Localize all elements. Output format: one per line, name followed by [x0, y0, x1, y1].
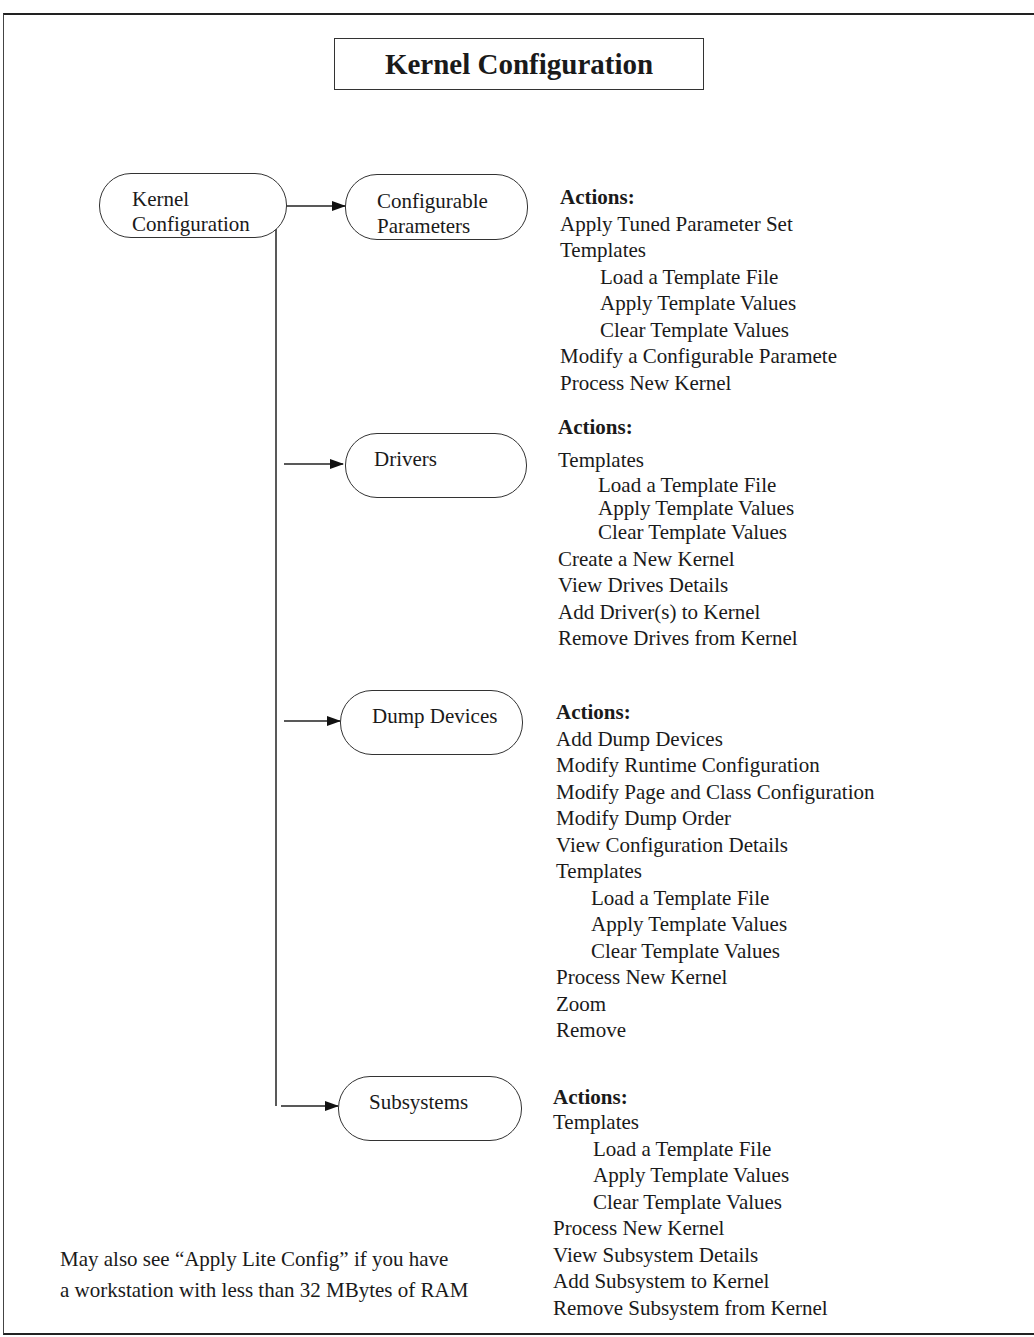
action-item: Remove Subsystem from Kernel: [553, 1295, 828, 1322]
actions-subsystems: Actions: Templates Load a Template File …: [553, 1085, 828, 1321]
node-configurable-parameters: Configurable Parameters: [345, 174, 528, 240]
action-item: Templates: [556, 858, 874, 885]
action-subitem: Load a Template File: [558, 473, 798, 497]
action-item: Modify a Configurable Paramete: [560, 343, 837, 370]
actions-header: Actions:: [556, 699, 874, 726]
node-label: Kernel: [132, 187, 286, 212]
action-item: Zoom: [556, 991, 874, 1018]
footnote: May also see “Apply Lite Config” if you …: [60, 1244, 468, 1306]
node-drivers: Drivers: [345, 433, 527, 498]
action-subitem: Apply Template Values: [558, 497, 798, 519]
action-item: Process New Kernel: [560, 370, 837, 397]
action-item: View Configuration Details: [556, 832, 874, 859]
action-item: Templates: [553, 1109, 828, 1136]
action-item: Modify Page and Class Configuration: [556, 779, 874, 806]
node-dump-devices: Dump Devices: [340, 690, 523, 755]
node-label: Configurable: [377, 189, 527, 214]
footnote-line: a workstation with less than 32 MBytes o…: [60, 1275, 468, 1306]
node-label: Subsystems: [369, 1090, 521, 1115]
action-subitem: Apply Template Values: [553, 1162, 828, 1189]
action-item: Templates: [560, 237, 837, 264]
action-subitem: Load a Template File: [556, 885, 874, 912]
action-item: View Subsystem Details: [553, 1242, 828, 1269]
actions-dump-devices: Actions: Add Dump Devices Modify Runtime…: [556, 699, 874, 1044]
action-subitem: Clear Template Values: [556, 938, 874, 965]
action-subitem: Load a Template File: [553, 1136, 828, 1163]
node-label: Drivers: [374, 447, 526, 472]
action-subitem: Clear Template Values: [560, 317, 837, 344]
node-label: Configuration: [132, 212, 286, 237]
action-item: Templates: [558, 447, 798, 474]
action-item: Process New Kernel: [553, 1215, 828, 1242]
actions-header: Actions:: [560, 184, 837, 211]
actions-header: Actions:: [558, 414, 798, 441]
action-item: Modify Dump Order: [556, 805, 874, 832]
node-label: Dump Devices: [372, 704, 522, 729]
action-subitem: Apply Template Values: [556, 911, 874, 938]
action-item: Create a New Kernel: [558, 546, 798, 573]
actions-drivers: Actions: Templates Load a Template File …: [558, 414, 798, 652]
action-subitem: Load a Template File: [560, 264, 837, 291]
action-item: Add Subsystem to Kernel: [553, 1268, 828, 1295]
action-item: Process New Kernel: [556, 964, 874, 991]
action-subitem: Apply Template Values: [560, 290, 837, 317]
node-label: Parameters: [377, 214, 527, 239]
action-item: Remove Drives from Kernel: [558, 625, 798, 652]
action-item: Add Driver(s) to Kernel: [558, 599, 798, 626]
actions-configurable-parameters: Actions: Apply Tuned Parameter Set Templ…: [560, 184, 837, 396]
action-item: Add Dump Devices: [556, 726, 874, 753]
node-kernel-configuration: Kernel Configuration: [99, 173, 287, 238]
action-subitem: Clear Template Values: [553, 1189, 828, 1216]
action-item: View Drives Details: [558, 572, 798, 599]
action-subitem: Clear Template Values: [558, 519, 798, 546]
action-item: Modify Runtime Configuration: [556, 752, 874, 779]
footnote-line: May also see “Apply Lite Config” if you …: [60, 1244, 468, 1275]
node-subsystems: Subsystems: [338, 1076, 522, 1141]
action-item: Remove: [556, 1017, 874, 1044]
action-item: Apply Tuned Parameter Set: [560, 211, 837, 238]
actions-header: Actions:: [553, 1085, 828, 1109]
